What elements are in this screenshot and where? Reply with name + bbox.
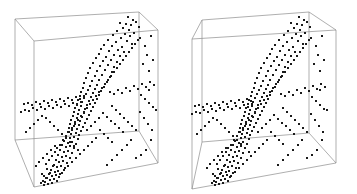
datapoint [53,125,55,127]
datapoint [62,160,64,162]
datapoint [314,119,316,121]
datapoint [248,151,250,153]
datapoint [233,139,235,141]
datapoint [323,108,325,110]
datapoint [35,101,37,103]
datapoint [298,123,300,125]
datapoint [206,103,208,105]
datapoint [80,101,82,103]
datapoint [284,54,286,56]
scatter-svg-right [178,0,357,194]
datapoint [113,93,115,95]
datapoint [242,141,244,143]
box-edge-back-bottom [202,133,309,142]
datapoint [271,90,273,92]
datapoint [265,102,267,104]
datapoint [292,46,294,48]
datapoint [64,167,66,169]
datapoint [149,81,151,83]
datapoint [263,92,265,94]
datapoint [80,105,82,107]
datapoint [147,123,149,125]
datapoint [229,161,231,163]
datapoint [251,105,253,107]
datapoint [65,135,67,137]
datapoint [103,44,105,46]
datapoint [302,43,304,45]
datapoint [199,112,201,114]
datapoint [121,149,123,151]
datapoint [234,151,236,153]
datapoint [79,95,81,97]
datapoint [246,143,248,145]
datapoint [300,35,302,37]
datapoint [119,22,121,24]
datapoint [230,175,232,177]
datapoint [83,95,85,97]
datapoint [253,87,255,89]
datapoint [94,88,96,90]
datapoint [84,122,86,124]
datapoint [265,88,267,90]
datapoint [55,101,57,103]
datapoint [25,131,27,133]
datapoint [259,100,261,102]
datapoint [200,129,202,131]
datapoint [267,98,269,100]
datapoint [24,109,26,111]
datapoint [96,84,98,86]
datapoint [57,154,59,156]
datapoint [140,154,142,156]
datapoint [114,123,116,125]
datapoint [240,145,242,147]
datapoint [122,59,124,61]
datapoint [123,51,125,53]
datapoint [250,155,252,157]
datapoint [130,139,132,141]
datapoint [47,102,49,104]
datapoint [227,147,229,149]
datapoint [86,107,88,109]
datapoint [213,159,215,161]
datapoint [240,123,242,125]
datapoint [286,111,288,113]
datapoint [319,104,321,106]
datapoint [33,123,35,125]
datapoint [119,63,121,65]
datapoint [61,156,63,158]
datapoint [111,159,113,161]
datapoint [45,163,47,165]
datapoint [75,132,77,134]
datapoint [44,108,46,110]
scatter-panel-right [178,0,357,194]
datapoint [116,154,118,156]
datapoint [249,109,251,111]
datapoint [254,151,256,153]
box-edge-back-bottom [15,131,139,140]
datapoint [40,182,42,184]
box-edge-connect-top-right [139,12,158,30]
datapoint [278,139,280,141]
datapoint [321,139,323,141]
datapoint [71,99,73,101]
datapoint [225,171,227,173]
datapoint [270,65,272,67]
datapoint [80,91,82,93]
datapoint [120,37,122,39]
datapoint [107,137,109,139]
datapoint [247,106,249,108]
datapoint [289,129,291,131]
datapoint [86,104,88,106]
datapoint [86,129,88,131]
box-edge-back-top [202,12,309,20]
datapoint [284,95,286,97]
datapoint [148,89,150,91]
datapoint [72,102,74,104]
datapoint [76,104,78,106]
datapoint [323,59,325,61]
datapoint [236,139,238,141]
datapoint [251,91,253,93]
datapoint [152,106,154,108]
datapoint [318,125,320,127]
datapoint [302,127,304,129]
